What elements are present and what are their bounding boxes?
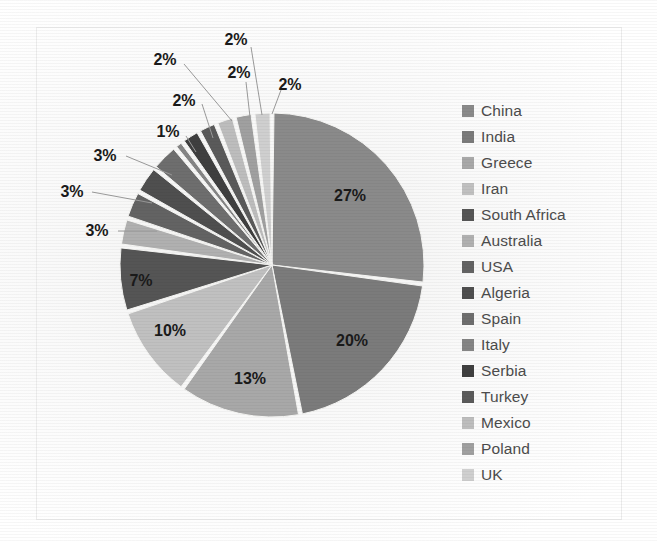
- legend-item-india[interactable]: India: [462, 124, 612, 150]
- legend-swatch-icon: [462, 105, 474, 117]
- legend-swatch-icon: [462, 313, 474, 325]
- pie-callout-label: 3%: [60, 183, 83, 201]
- pie-data-label: 7%: [129, 272, 152, 290]
- legend-swatch-icon: [462, 339, 474, 351]
- legend-item-turkey[interactable]: Turkey: [462, 384, 612, 410]
- legend-item-label: India: [481, 128, 515, 146]
- pie-data-label: 10%: [154, 322, 186, 340]
- pie-callout-label: 1%: [156, 123, 179, 141]
- legend-item-label: China: [481, 102, 522, 120]
- legend-item-mexico[interactable]: Mexico: [462, 410, 612, 436]
- legend-item-china[interactable]: China: [462, 98, 612, 124]
- legend-item-label: UK: [481, 466, 503, 484]
- pie-callout-label: 2%: [224, 31, 247, 49]
- pie-callout-label: 3%: [85, 222, 108, 240]
- pie-data-label: 27%: [334, 187, 366, 205]
- legend-swatch-icon: [462, 235, 474, 247]
- legend-item-algeria[interactable]: Algeria: [462, 280, 612, 306]
- legend-swatch-icon: [462, 131, 474, 143]
- legend-swatch-icon: [462, 391, 474, 403]
- pie-callout-label: 2%: [278, 76, 301, 94]
- legend-item-label: Serbia: [481, 362, 526, 380]
- leader-line: [251, 47, 262, 115]
- legend-item-spain[interactable]: Spain: [462, 306, 612, 332]
- pie-callout-label: 3%: [93, 147, 116, 165]
- pie-callout-label: 2%: [153, 51, 176, 69]
- legend-item-uk[interactable]: UK: [462, 462, 612, 488]
- legend-item-label: Poland: [481, 440, 530, 458]
- pie-data-label: 20%: [336, 332, 368, 350]
- pie-slices: [120, 113, 424, 417]
- pie-callout-label: 2%: [227, 64, 250, 82]
- legend-swatch-icon: [462, 261, 474, 273]
- legend-item-label: Mexico: [481, 414, 531, 432]
- pie-data-label: 13%: [234, 370, 266, 388]
- legend-swatch-icon: [462, 417, 474, 429]
- legend-item-south-africa[interactable]: South Africa: [462, 202, 612, 228]
- pie-callout-label: 2%: [172, 92, 195, 110]
- legend-item-label: Greece: [481, 154, 532, 172]
- legend-item-greece[interactable]: Greece: [462, 150, 612, 176]
- legend-item-label: Spain: [481, 310, 521, 328]
- legend-item-usa[interactable]: USA: [462, 254, 612, 280]
- leader-line: [246, 82, 250, 117]
- legend-item-label: Algeria: [481, 284, 530, 302]
- legend-swatch-icon: [462, 287, 474, 299]
- legend-swatch-icon: [462, 365, 474, 377]
- legend-item-italy[interactable]: Italy: [462, 332, 612, 358]
- chart-legend: ChinaIndiaGreeceIranSouth AfricaAustrali…: [462, 98, 612, 488]
- legend-item-serbia[interactable]: Serbia: [462, 358, 612, 384]
- legend-item-label: USA: [481, 258, 513, 276]
- legend-item-label: Australia: [481, 232, 542, 250]
- legend-swatch-icon: [462, 469, 474, 481]
- legend-item-label: Iran: [481, 180, 508, 198]
- legend-item-australia[interactable]: Australia: [462, 228, 612, 254]
- legend-swatch-icon: [462, 183, 474, 195]
- legend-item-label: Turkey: [481, 388, 528, 406]
- legend-item-poland[interactable]: Poland: [462, 436, 612, 462]
- legend-item-iran[interactable]: Iran: [462, 176, 612, 202]
- legend-swatch-icon: [462, 443, 474, 455]
- legend-swatch-icon: [462, 157, 474, 169]
- legend-item-label: South Africa: [481, 206, 566, 224]
- legend-swatch-icon: [462, 209, 474, 221]
- legend-item-label: Italy: [481, 336, 510, 354]
